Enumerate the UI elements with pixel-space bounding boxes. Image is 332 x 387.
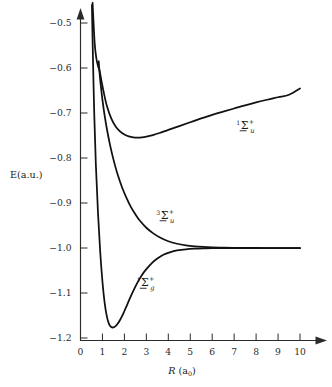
y-axis-arrow-icon (77, 8, 85, 20)
y-tick-group: −0.5−0.6−0.7−0.8−0.9−1.0−1.1−1.2 (49, 17, 87, 343)
x-tick-label: 7 (231, 346, 237, 357)
y-axis (77, 8, 85, 341)
svg-text:1Σ+g: 1Σ+g (136, 275, 154, 292)
x-tick-label: 9 (275, 346, 281, 357)
potential-energy-curve-figure: −0.5−0.6−0.7−0.8−0.9−1.0−1.1−1.2 0123456… (0, 0, 332, 387)
y-tick-label: −1.1 (49, 287, 71, 298)
x-axis-title-symbol: R (167, 365, 175, 376)
y-tick-label: −0.9 (49, 197, 71, 208)
curve-label-1Σg+: 1Σ+g (136, 275, 154, 292)
curve-label-group: 1Σ+u3Σ+u1Σ+g (136, 118, 254, 293)
x-axis-title-paren-open: (a (178, 365, 188, 376)
curve-label-parity-sup: + (149, 275, 154, 283)
svg-text:R(a0): R(a0) (167, 365, 196, 378)
x-axis-arrow-icon (316, 337, 328, 345)
curve-label-3Σu+: 3Σ+u (156, 208, 174, 225)
x-tick-label: 2 (121, 346, 127, 357)
x-axis (81, 337, 328, 345)
y-tick-label: −0.7 (49, 107, 71, 118)
x-tick-label: 5 (187, 346, 193, 357)
plot-area: −0.5−0.6−0.7−0.8−0.9−1.0−1.1−1.2 0123456… (0, 0, 332, 387)
curve-label-multiplicity: 1 (136, 276, 140, 283)
curve-label-sigma: Σ (161, 209, 169, 222)
curve-label-symmetry-sub: u (250, 127, 254, 135)
y-tick-label: −0.6 (49, 62, 71, 73)
y-tick-label: −0.8 (49, 152, 71, 163)
x-axis-title-paren-close: ) (192, 365, 196, 376)
y-axis-title: E(a.u.) (10, 169, 43, 180)
curve-label-sigma: Σ (241, 119, 249, 132)
x-tick-label: 10 (294, 346, 306, 357)
curve-label-multiplicity: 1 (236, 119, 240, 126)
curve-label-symmetry-sub: u (170, 217, 174, 225)
x-tick-label: 0 (78, 346, 84, 357)
x-tick-label: 4 (165, 346, 171, 357)
curve-label-parity-sup: + (249, 118, 254, 126)
curve-3Σu+ (99, 61, 300, 248)
svg-text:1Σ+u: 1Σ+u (236, 118, 254, 135)
y-tick-label: −1.2 (49, 332, 71, 343)
svg-text:3Σ+u: 3Σ+u (156, 208, 174, 225)
curve-1Σg+ (92, 5, 300, 328)
curve-label-multiplicity: 3 (156, 209, 160, 216)
x-tick-label: 6 (209, 346, 215, 357)
x-tick-group: 012345678910 (78, 334, 306, 358)
x-tick-label: 1 (100, 346, 106, 357)
curve-label-sigma: Σ (141, 276, 149, 289)
y-tick-label: −0.5 (49, 17, 71, 28)
curve-label-parity-sup: + (169, 208, 174, 216)
x-tick-label: 8 (253, 346, 259, 357)
curve-label-symmetry-sub: g (150, 284, 154, 292)
curve-label-1Σu+: 1Σ+u (236, 118, 254, 135)
curve-group (92, 3, 300, 328)
x-tick-label: 3 (143, 346, 149, 357)
curve-1Σu+ (93, 3, 300, 138)
x-axis-title: R(a0) (167, 365, 196, 378)
y-tick-label: −1.0 (49, 242, 71, 253)
